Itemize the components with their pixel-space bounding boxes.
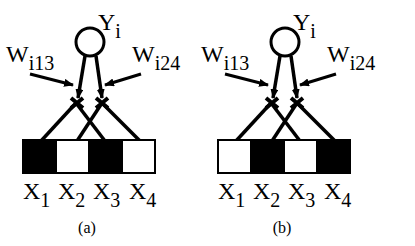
input-box-x1: [23, 140, 56, 173]
weight-arrow-i13: [30, 74, 73, 85]
weight-label-i24: Wi24: [327, 41, 375, 74]
stem-left: [78, 56, 85, 98]
weight-label-i13: Wi13: [6, 41, 54, 74]
diagram-canvas: Yi Wi13 Wi24 X1 X2 X3 X4 (a): [0, 0, 415, 246]
conn-i24-x4: [297, 103, 335, 141]
input-box-x3: [284, 140, 317, 173]
stem-right: [291, 56, 297, 98]
panel-caption-b: (b): [273, 219, 292, 237]
weight-arrow-i24: [300, 74, 336, 85]
input-box-x2: [56, 140, 89, 173]
conn-i13-x1: [41, 103, 76, 141]
stem-left: [273, 56, 280, 98]
input-label-x4: X4: [129, 178, 156, 211]
input-box-x4: [122, 140, 155, 173]
input-box-x2: [251, 140, 284, 173]
input-label-x1: X1: [23, 178, 50, 211]
weight-label-i24: Wi24: [132, 41, 180, 74]
conn-i13-x1: [236, 103, 271, 141]
conn-i24-x4: [102, 103, 140, 141]
input-label-x3: X3: [93, 178, 120, 211]
weight-label-i13: Wi13: [201, 41, 249, 74]
input-label-x3: X3: [288, 178, 315, 211]
input-box-x3: [89, 140, 122, 173]
stem-right: [96, 56, 102, 98]
input-label-x4: X4: [324, 178, 351, 211]
input-box-x1: [218, 140, 251, 173]
panel-caption-a: (a): [78, 219, 96, 237]
input-box-x4: [317, 140, 350, 173]
input-label-x2: X2: [253, 178, 280, 211]
input-label-x1: X1: [218, 178, 245, 211]
panel-b: Yi Wi13 Wi24 X1 X2 X3 X4 (b): [201, 9, 375, 237]
input-label-x2: X2: [58, 178, 85, 211]
weight-arrow-i13: [225, 74, 268, 85]
weight-arrow-i24: [105, 74, 141, 85]
panel-a: Yi Wi13 Wi24 X1 X2 X3 X4 (a): [6, 9, 180, 237]
